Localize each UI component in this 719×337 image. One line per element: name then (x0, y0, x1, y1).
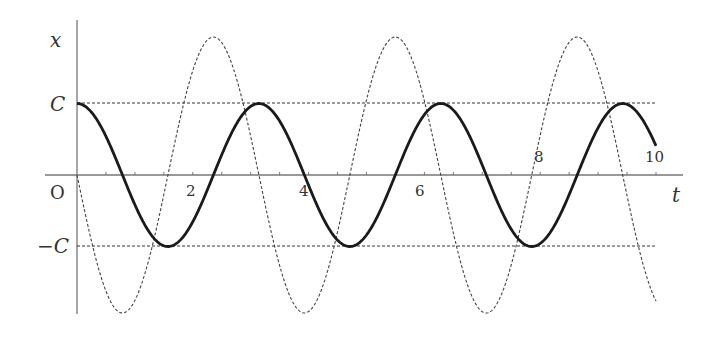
x-tick-label-2: 2 (186, 182, 196, 200)
chart: x t O C −C 2 4 6 8 10 (0, 0, 719, 337)
y-tick-neg-c: −C (37, 234, 69, 258)
x-axis-label: t (672, 183, 681, 207)
x-tick-label-10: 10 (645, 148, 664, 166)
y-axis-label: x (50, 28, 61, 52)
y-tick-c: C (50, 92, 65, 116)
x-tick-label-6: 6 (415, 182, 425, 200)
origin-label: O (50, 182, 65, 203)
x-tick-label-8: 8 (534, 148, 544, 166)
x-tick-label-4: 4 (299, 182, 309, 200)
